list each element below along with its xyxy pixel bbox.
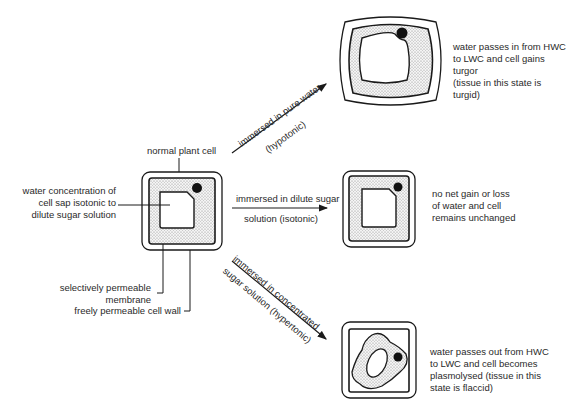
outcome-line: water passes in from HWC [453, 41, 570, 53]
cell-wall-label: freely permeable cell wall [40, 305, 181, 317]
cell-sap-label-line: dilute sugar solution [4, 209, 116, 221]
outcome-line: to LWC and cell becomes [430, 358, 549, 370]
unchanged-cell [343, 171, 415, 247]
outcome-unchanged-label: no net gain or loss of water and cell re… [432, 188, 515, 224]
outcome-line: to LWC and cell gains turgor [453, 53, 570, 77]
outcome-turgid-label: water passes in from HWC to LWC and cell… [453, 41, 570, 101]
nucleus-icon [397, 28, 408, 39]
cell-sap-label-line: cell sap isotonic to [4, 197, 116, 209]
outcome-line: state is flaccid) [430, 382, 549, 394]
turgid-cell [340, 17, 441, 105]
membrane-label: selectively permeable membrane [30, 282, 151, 306]
outcome-plasmolysed-label: water passes out from HWC to LWC and cel… [430, 346, 549, 394]
normal-plant-cell-label: normal plant cell [147, 145, 216, 157]
nucleus-icon [394, 353, 403, 362]
cell-sap-label: water concentration of cell sap isotonic… [4, 185, 116, 221]
outcome-line: remains unchanged [432, 212, 515, 224]
membrane-label-line: selectively permeable [30, 282, 151, 294]
outcome-line: plasmolysed (tissue in this [430, 370, 549, 382]
outcome-line: no net gain or loss [432, 188, 515, 200]
nucleus-icon [192, 183, 202, 193]
arrow-isotonic-top-label: immersed in dilute sugar [236, 193, 326, 205]
outcome-line: (tissue in this state is turgid) [453, 77, 570, 101]
cell-sap-label-line: water concentration of [4, 185, 116, 197]
plasmolysed-cell [342, 322, 416, 398]
nucleus-icon [394, 183, 403, 192]
normal-plant-cell [142, 172, 222, 250]
outcome-line: water passes out from HWC [430, 346, 549, 358]
outcome-line: of water and cell [432, 200, 515, 212]
arrow-isotonic-bottom-label: solution (isotonic) [236, 213, 326, 225]
